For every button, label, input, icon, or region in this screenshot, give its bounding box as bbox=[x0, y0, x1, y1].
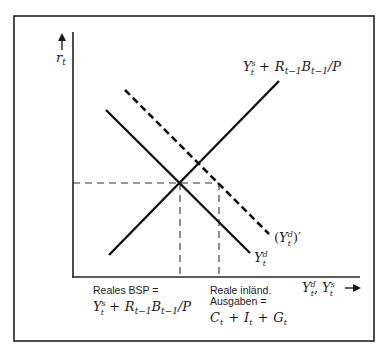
shifted-demand-label: (Ydt)′ bbox=[274, 230, 301, 248]
y-axis-label: rt bbox=[56, 50, 66, 67]
x-axis-arrow-icon bbox=[345, 284, 361, 292]
figure-frame bbox=[14, 16, 374, 341]
economic-diagram: rt Yst+Rt−1Bt−1/P (Ydt)′ Ydt Ydt,Yst Rea… bbox=[0, 0, 389, 352]
demand-label: Ydt bbox=[254, 250, 268, 268]
real-spending-formula: Ct+It+Gt bbox=[210, 310, 288, 327]
real-gdp-label: Reales BSP = bbox=[93, 284, 158, 296]
x-axis-label: Ydt,Yst bbox=[302, 280, 335, 298]
real-gdp-formula: Yst+Rt−1Bt−1/P bbox=[93, 299, 191, 317]
supply-curve bbox=[109, 81, 279, 255]
real-spending-label-line2: Ausgaben = bbox=[210, 295, 266, 307]
shifted-demand-curve bbox=[125, 90, 269, 234]
y-axis-arrow-icon bbox=[58, 33, 66, 50]
supply-curve-label: Yst+Rt−1Bt−1/P bbox=[243, 59, 341, 77]
